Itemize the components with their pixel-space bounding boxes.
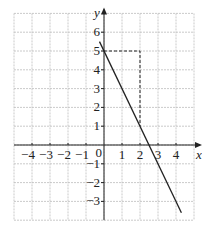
x-tick-label: −2 [57,147,71,162]
y-tick-label: 5 [94,43,101,58]
x-tick-label: 1 [119,147,126,162]
y-tick-label: 6 [94,24,101,39]
y-axis-label: y [92,5,100,20]
y-tick-label: 3 [94,81,101,96]
x-tick-label: −4 [21,147,35,162]
y-tick-label: −3 [86,193,100,208]
x-tick-label: 4 [173,147,180,162]
chart-canvas: −4−3−2−11234654321−1−2−30xy [0,0,202,234]
y-axis-arrow-icon [101,7,107,14]
y-tick-label: 1 [94,118,101,133]
origin-label: 0 [96,145,103,160]
x-axis-label: x [195,147,202,162]
y-tick-label: 2 [94,99,101,114]
y-tick-label: 4 [94,62,101,77]
y-tick-label: −2 [86,175,100,190]
x-tick-label: 2 [137,147,144,162]
x-tick-label: −3 [39,147,53,162]
